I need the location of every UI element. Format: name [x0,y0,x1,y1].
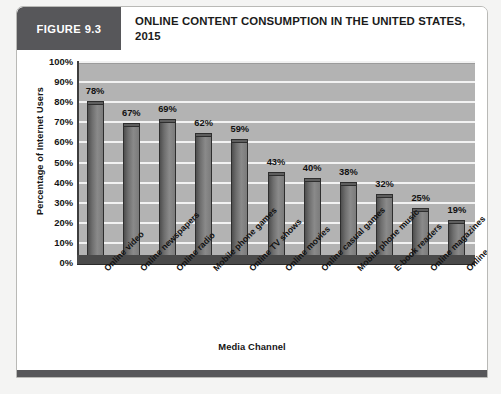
x-axis-title: Media Channel [17,341,487,352]
y-axis-tick: 10% [37,236,73,247]
bar-value-label: 40% [303,163,322,173]
bar-top-face [340,182,357,186]
bar-top-face [87,101,104,105]
bar-top-face [268,172,285,176]
x-axis-tick-labels: Online videoOnline newspapersOnline radi… [77,266,475,346]
chart-canvas: Percentage of Internet Users 100%90%80%7… [17,50,487,362]
bar-value-label: 38% [339,167,358,177]
bar-top-face [376,194,393,198]
y-axis-tick: 50% [37,156,73,167]
bar-top-face [159,119,176,123]
bar-front-face [87,103,104,260]
figure-title: ONLINE CONTENT CONSUMPTION IN THE UNITED… [121,7,487,50]
figure-container: FIGURE 9.3 ONLINE CONTENT CONSUMPTION IN… [16,6,488,378]
bar-value-label: 62% [194,118,213,128]
y-axis-tick: 30% [37,196,73,207]
figure-header: FIGURE 9.3 ONLINE CONTENT CONSUMPTION IN… [17,7,487,50]
bar-value-label: 25% [411,193,430,203]
y-axis-tick: 0% [37,257,73,268]
bar-top-face [195,133,212,137]
bar-top-face [448,220,465,224]
y-axis-tick: 100% [37,56,73,67]
bar-value-label: 78% [86,86,105,96]
y-axis-tick: 70% [37,116,73,127]
bar-value-label: 43% [267,157,286,167]
y-axis-tick: 80% [37,96,73,107]
figure-bottom-rule [17,370,487,377]
bar-top-face [304,178,321,182]
y-axis-tick-labels: 100%90%80%70%60%50%40%30%20%10%0% [37,61,73,261]
y-axis-tick: 90% [37,76,73,87]
bar[interactable]: 78% [87,103,104,260]
bar-top-face [231,139,248,143]
y-axis-tick: 40% [37,176,73,187]
bar-value-label: 19% [448,205,467,215]
y-axis-tick: 20% [37,216,73,227]
bar-top-face [123,123,140,127]
bar-value-label: 69% [158,104,177,114]
bar-value-label: 59% [231,124,250,134]
bar-value-label: 32% [375,179,394,189]
y-axis-tick: 60% [37,136,73,147]
bar-value-label: 67% [122,108,141,118]
figure-number-badge: FIGURE 9.3 [17,7,121,50]
